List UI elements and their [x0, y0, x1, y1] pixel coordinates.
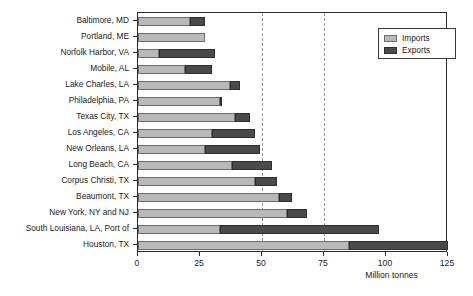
value-tick-label: 75 [318, 258, 328, 268]
bar-segment-exports [349, 241, 448, 250]
category-tick [133, 196, 137, 197]
category-label: Baltimore, MD [76, 16, 129, 25]
category-label: Los Angeles, CA [68, 128, 129, 137]
bar-segment-exports [205, 145, 260, 154]
bar-row [138, 241, 448, 250]
bar-segment-exports [220, 97, 222, 106]
bar-segment-exports [190, 17, 205, 26]
bar-row [138, 161, 272, 170]
value-tick-125 [447, 252, 448, 256]
bar-segment-imports [138, 65, 185, 74]
value-tick-label: 0 [135, 258, 140, 268]
bar-segment-imports [138, 225, 220, 234]
bar-segment-imports [138, 17, 190, 26]
category-label: Houston, TX [83, 240, 129, 249]
bar-chart: Baltimore, MDPortland, MENorfolk Harbor,… [0, 0, 473, 296]
value-tick-label: 25 [194, 258, 204, 268]
category-tick [133, 228, 137, 229]
bar-segment-imports [138, 193, 279, 202]
legend-label-exports: Exports [402, 45, 430, 55]
bar-segment-imports [138, 49, 159, 58]
category-tick [133, 212, 137, 213]
bar-row [138, 225, 379, 234]
category-label: New Orleans, LA [66, 144, 129, 153]
bar-segment-imports [138, 129, 212, 138]
bar-segment-exports [212, 129, 254, 138]
bar-segment-imports [138, 145, 205, 154]
chart-legend: Imports Exports [378, 28, 456, 59]
category-label: Mobile, AL [90, 64, 129, 73]
bar-segment-imports [138, 241, 349, 250]
category-tick [133, 116, 137, 117]
category-tick [133, 132, 137, 133]
bar-segment-imports [138, 33, 205, 42]
category-label: Long Beach, CA [69, 160, 129, 169]
bar-row [138, 193, 292, 202]
bar-row [138, 81, 240, 90]
bar-segment-exports [159, 49, 215, 58]
category-tick [133, 20, 137, 21]
bar-segment-exports [230, 81, 240, 90]
bar-segment-imports [138, 209, 287, 218]
category-label: Corpus Christi, TX [61, 176, 129, 185]
bar-segment-imports [138, 113, 235, 122]
category-tick [133, 148, 137, 149]
legend-swatch-exports-icon [384, 47, 397, 54]
category-tick [133, 36, 137, 37]
legend-item-imports: Imports [384, 32, 455, 44]
category-tick [133, 244, 137, 245]
bar-row [138, 17, 205, 26]
legend-swatch-imports-icon [384, 35, 397, 42]
value-tick-0 [137, 252, 138, 256]
category-axis-labels: Baltimore, MDPortland, MENorfolk Harbor,… [0, 12, 133, 252]
category-tick [133, 84, 137, 85]
category-label: Portland, ME [81, 32, 129, 41]
bar-row [138, 209, 307, 218]
bar-row [138, 145, 260, 154]
bar-segment-exports [232, 161, 272, 170]
value-tick-100 [385, 252, 386, 256]
value-axis-title: Million tonnes [0, 270, 473, 280]
category-tick [133, 180, 137, 181]
bar-segment-exports [255, 177, 277, 186]
category-label: Lake Charles, LA [65, 80, 129, 89]
category-label: Texas City, TX [76, 112, 129, 121]
bar-segment-imports [138, 81, 230, 90]
legend-item-exports: Exports [384, 44, 455, 56]
bar-segment-imports [138, 161, 232, 170]
category-label: Philadelphia, PA [69, 96, 129, 105]
category-tick [133, 52, 137, 53]
value-axis-title-text: Million tonnes [365, 270, 418, 280]
bar-row [138, 49, 215, 58]
bar-segment-exports [279, 193, 291, 202]
value-tick-50 [261, 252, 262, 256]
category-tick [133, 164, 137, 165]
bar-row [138, 97, 222, 106]
bar-segment-imports [138, 177, 255, 186]
bar-row [138, 177, 277, 186]
category-label: New York, NY and NJ [49, 208, 129, 217]
bar-segment-exports [220, 225, 379, 234]
legend-label-imports: Imports [402, 33, 430, 43]
category-label: South Louisiana, LA, Port of [26, 224, 129, 233]
bar-segment-imports [138, 97, 220, 106]
category-tick [133, 100, 137, 101]
bar-row [138, 129, 255, 138]
value-tick-label: 50 [256, 258, 266, 268]
category-tick [133, 68, 137, 69]
category-label: Beaumont, TX [76, 192, 129, 201]
bar-segment-exports [185, 65, 212, 74]
value-tick-label: 125 [440, 258, 454, 268]
bar-row [138, 65, 212, 74]
bar-segment-exports [235, 113, 250, 122]
value-tick-25 [199, 252, 200, 256]
category-label: Norfolk Harbor, VA [60, 48, 129, 57]
value-tick-label: 100 [378, 258, 392, 268]
bar-row [138, 113, 250, 122]
bar-segment-exports [287, 209, 307, 218]
value-tick-75 [323, 252, 324, 256]
bar-row [138, 33, 205, 42]
